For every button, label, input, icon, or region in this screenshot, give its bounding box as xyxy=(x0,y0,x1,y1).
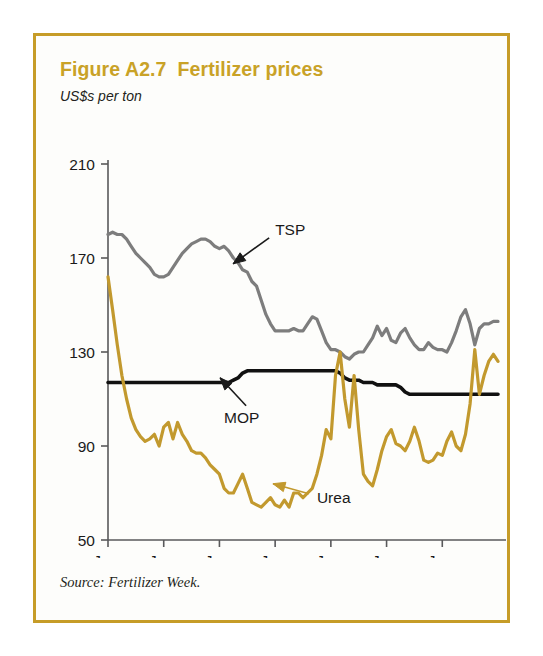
y-axis-tick-label: 170 xyxy=(69,250,95,267)
y-axis-tick-label: 130 xyxy=(69,344,95,361)
series-label-mop: MOP xyxy=(224,409,259,426)
y-axis-tick-label: 90 xyxy=(78,438,96,455)
x-axis-tick-month: Jan. xyxy=(316,552,345,558)
y-axis: 5090130170210 xyxy=(69,156,108,549)
x-axis-tick-month: Jan. xyxy=(260,552,289,558)
series-line-mop xyxy=(108,371,498,395)
figure-subtitle-units: US$s per ton xyxy=(60,88,142,104)
y-axis-tick-label: 50 xyxy=(78,532,96,549)
series-line-urea xyxy=(108,277,498,507)
series-line-tsp xyxy=(108,232,498,359)
x-axis-tick-month: Jan. xyxy=(428,552,457,558)
figure-source-note: Source: Fertilizer Week. xyxy=(60,574,200,591)
figure-panel: Figure A2.7 Fertilizer prices US$s per t… xyxy=(33,33,510,623)
annotation-arrowhead xyxy=(273,482,286,491)
fertilizer-prices-line-chart: 5090130170210 Jan.1997Jan.1998Jan.1999Ja… xyxy=(36,108,507,558)
figure-title: Figure A2.7 Fertilizer prices xyxy=(60,58,323,81)
data-series-group xyxy=(108,232,498,507)
series-label-urea: Urea xyxy=(317,489,351,506)
y-axis-tick-label: 210 xyxy=(69,156,95,173)
series-label-tsp: TSP xyxy=(275,221,305,238)
x-axis: Jan.1997Jan.1998Jan.1999Jan.2000Jan.2001… xyxy=(91,540,506,558)
x-axis-tick-month: Jan. xyxy=(372,552,401,558)
x-axis-tick-month: Jan. xyxy=(93,552,122,558)
x-axis-tick-month: Jan. xyxy=(149,552,178,558)
x-axis-tick-month: Jan. xyxy=(205,552,234,558)
